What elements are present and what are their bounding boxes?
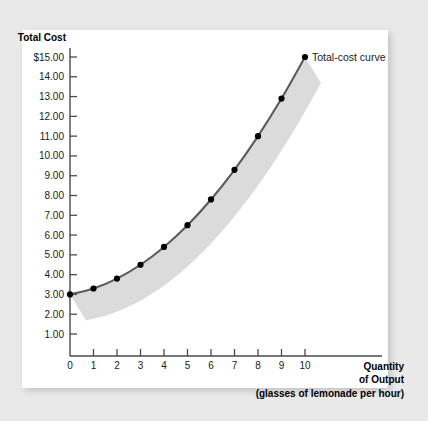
y-tick-label: 11.00 bbox=[40, 131, 65, 142]
chart-canvas: 1.002.003.004.005.006.007.008.009.0010.0… bbox=[0, 0, 428, 421]
y-tick-label: 3.00 bbox=[45, 289, 65, 300]
data-point bbox=[114, 276, 120, 282]
data-point bbox=[278, 95, 284, 101]
y-tick-label: 4.00 bbox=[45, 269, 65, 280]
y-axis-tick-labels: 1.002.003.004.005.006.007.008.009.0010.0… bbox=[33, 52, 64, 340]
data-point bbox=[161, 244, 167, 250]
y-tick-label: $15.00 bbox=[33, 52, 64, 63]
x-axis-tick-labels: 012345678910 bbox=[67, 360, 311, 371]
y-tick-label: 12.00 bbox=[39, 111, 64, 122]
x-tick-label: 8 bbox=[255, 360, 261, 371]
data-point bbox=[208, 196, 214, 202]
x-tick-label: 2 bbox=[114, 360, 120, 371]
y-tick-label: 5.00 bbox=[45, 249, 65, 260]
y-tick-label: 8.00 bbox=[45, 190, 65, 201]
x-axis-title-line2: of Output bbox=[359, 374, 405, 385]
data-point bbox=[255, 133, 261, 139]
y-tick-label: 13.00 bbox=[39, 91, 64, 102]
data-point bbox=[302, 54, 308, 60]
y-tick-label: 9.00 bbox=[45, 170, 65, 181]
y-tick-label: 14.00 bbox=[39, 71, 64, 82]
x-axis-title-line3: (glasses of lemonade per hour) bbox=[256, 388, 404, 399]
y-tick-label: 1.00 bbox=[45, 329, 65, 340]
y-tick-label: 10.00 bbox=[39, 150, 64, 161]
data-point bbox=[67, 291, 73, 297]
total-cost-curve-label: Total-cost curve bbox=[312, 51, 386, 63]
y-tick-label: 7.00 bbox=[45, 210, 65, 221]
x-tick-label: 6 bbox=[208, 360, 214, 371]
data-point bbox=[90, 285, 96, 291]
chart-figure: 1.002.003.004.005.006.007.008.009.0010.0… bbox=[0, 0, 428, 421]
data-point bbox=[137, 262, 143, 268]
x-tick-label: 7 bbox=[232, 360, 238, 371]
y-axis-title: Total Cost bbox=[18, 32, 67, 43]
x-tick-label: 9 bbox=[279, 360, 285, 371]
x-axis-ticks bbox=[94, 349, 306, 356]
data-point bbox=[231, 167, 237, 173]
x-tick-label: 0 bbox=[67, 360, 73, 371]
data-point bbox=[184, 222, 190, 228]
x-tick-label: 4 bbox=[161, 360, 167, 371]
x-tick-label: 1 bbox=[91, 360, 97, 371]
x-tick-label: 5 bbox=[185, 360, 191, 371]
x-tick-label: 3 bbox=[138, 360, 144, 371]
y-tick-label: 6.00 bbox=[45, 230, 65, 241]
y-tick-label: 2.00 bbox=[45, 309, 65, 320]
x-axis-title-line1: Quantity bbox=[363, 361, 404, 372]
x-tick-label: 10 bbox=[299, 360, 311, 371]
